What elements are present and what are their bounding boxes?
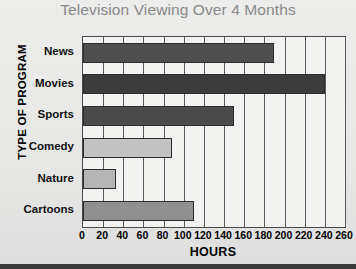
chart-title: Television Viewing Over 4 Months	[0, 1, 356, 19]
x-tick-0: 0	[79, 229, 85, 241]
y-tick-comedy: Comedy	[29, 131, 74, 163]
y-tick-news: News	[44, 36, 74, 68]
bar-cartoons	[83, 201, 194, 221]
bar-comedy	[83, 138, 172, 158]
plot-area	[82, 36, 346, 228]
bar-nature	[83, 169, 116, 189]
x-tick-100: 100	[174, 229, 192, 241]
x-tick-260: 260	[335, 229, 353, 241]
x-tick-200: 200	[275, 229, 293, 241]
x-tick-240: 240	[315, 229, 333, 241]
y-tick-nature: Nature	[38, 163, 74, 195]
x-tick-180: 180	[255, 229, 273, 241]
x-tick-40: 40	[116, 229, 128, 241]
bar-row	[83, 69, 325, 101]
bar-row	[83, 164, 116, 196]
x-tick-120: 120	[194, 229, 212, 241]
x-tick-20: 20	[96, 229, 108, 241]
bar-row	[83, 195, 194, 227]
x-axis-tick-labels: 020406080100120140160180200220240260	[82, 229, 344, 243]
x-tick-220: 220	[295, 229, 313, 241]
x-tick-80: 80	[157, 229, 169, 241]
bar-row	[83, 100, 234, 132]
y-tick-sports: Sports	[38, 99, 74, 131]
x-axis-title: HOURS	[82, 245, 344, 259]
gridline	[345, 37, 346, 227]
bar-sports	[83, 106, 234, 126]
bar-row	[83, 37, 274, 69]
y-tick-movies: Movies	[35, 68, 74, 100]
x-tick-140: 140	[214, 229, 232, 241]
chart-figure: Television Viewing Over 4 Months TYPE OF…	[0, 0, 356, 269]
y-axis-tick-labels: NewsMoviesSportsComedyNatureCartoons	[0, 36, 78, 226]
x-tick-160: 160	[234, 229, 252, 241]
bar-movies	[83, 74, 325, 94]
y-tick-cartoons: Cartoons	[24, 194, 74, 226]
bar-news	[83, 43, 274, 63]
bar-series	[83, 37, 345, 227]
bar-row	[83, 132, 172, 164]
x-tick-60: 60	[137, 229, 149, 241]
